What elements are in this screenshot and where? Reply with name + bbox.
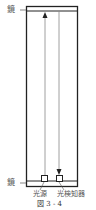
light-source-box [42,176,48,182]
tube-outline [27,7,78,187]
down-arrow-icon [57,169,62,175]
bottom-mirror-label: 鏡 [7,178,15,187]
detector-box [57,176,63,182]
up-arrow-icon [43,12,48,18]
figure-caption: 図 3 - 4 [37,200,62,209]
light-source-label: 光源 [33,190,47,199]
detector-label: 光検知器 [57,190,85,199]
top-mirror-label: 鏡 [7,5,15,14]
